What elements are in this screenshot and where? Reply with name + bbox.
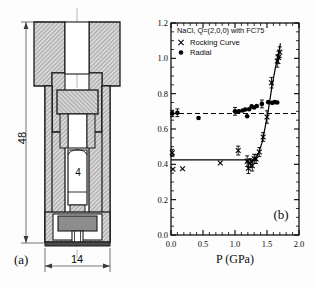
panel-a-drawing: 48 — [0, 0, 155, 287]
x-axis-label: P (GPa) — [216, 252, 254, 266]
panel-b-chart: 0.00.51.01.52.00.00.20.40.60.81.01.2P (G… — [155, 0, 315, 287]
y-tick-label: 0.2 — [157, 195, 168, 205]
x-tick-label: 0.5 — [198, 239, 209, 249]
y-tick-label: 0.6 — [157, 124, 168, 134]
x-tick-label: 1.0 — [230, 239, 241, 249]
data-point-circle — [260, 102, 265, 107]
base-plate — [45, 242, 110, 246]
bottom-cap-assembly — [45, 212, 110, 246]
series-rocking-curve — [170, 47, 282, 174]
legend-label: Radial — [190, 48, 212, 57]
legend-marker-circle — [179, 50, 184, 55]
y-tick-label: 0.8 — [157, 89, 168, 99]
piston-collar — [57, 90, 98, 114]
data-point-circle — [245, 114, 250, 119]
y-tick-label: 0.4 — [157, 159, 168, 169]
legend-label: Rocking Curve — [190, 38, 240, 47]
panel-a-label: (a) — [14, 252, 28, 268]
exit-window — [72, 231, 83, 242]
dimension-14: 14 — [45, 248, 110, 272]
series-radial — [170, 100, 280, 121]
dimension-48-label: 48 — [16, 132, 28, 144]
panel-b-label: (b) — [273, 207, 288, 222]
bore-sleeve-right — [87, 114, 95, 148]
data-point-circle — [196, 116, 201, 121]
anvil-block — [58, 216, 97, 231]
dimension-4-label: 4 — [75, 167, 81, 178]
data-point-circle — [170, 111, 175, 116]
dimension-14-label: 14 — [71, 253, 83, 265]
data-point-circle — [266, 100, 271, 105]
data-point-circle — [237, 109, 242, 114]
data-point-circle — [175, 110, 180, 115]
data-point-circle — [254, 104, 259, 109]
x-tick-label: 0.0 — [166, 239, 177, 249]
upper-bore — [65, 22, 89, 74]
x-tick-label: 1.5 — [262, 239, 273, 249]
bore-sleeve-left — [60, 114, 68, 148]
y-tick-label: 1.2 — [157, 18, 168, 28]
dimension-4: 4 — [75, 167, 81, 178]
y-tick-label: 1.0 — [157, 53, 168, 63]
collar-block — [57, 90, 98, 114]
y-tick-label: 0.0 — [157, 230, 168, 240]
figure-container: 48 — [0, 0, 315, 287]
x-tick-label: 2.0 — [294, 239, 305, 249]
chart-annotation: NaCl, Q=(2,0,0) with FC75 — [177, 26, 264, 35]
data-point-circle — [275, 100, 280, 105]
cell-cross-section-svg: 48 — [0, 0, 155, 287]
fwhm-vs-pressure-chart: 0.00.51.01.52.00.00.20.40.60.81.01.2P (G… — [155, 0, 315, 287]
inner-bore-upper — [68, 114, 87, 148]
